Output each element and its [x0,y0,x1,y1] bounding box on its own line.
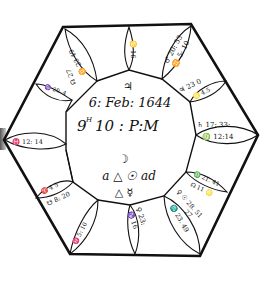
center-time-rest: 10 : P:M [95,117,159,135]
house-label-right-1: ♄ 17: 33: [197,121,230,129]
center-time-sup: H [85,116,93,124]
house-label-top: ♋ 16 [129,40,137,58]
house-label-top-left-2: ☊ 27 [65,68,78,86]
center-aspect-line-2: △ ☿ [115,186,134,199]
center-date: 6: Feb: 1644 [89,95,172,110]
connector-line [66,150,73,182]
horary-chart: ♃ 6: Feb: 1644 9 H 10 : P:M ☽ a △ ☉ ad △… [0,0,280,292]
center-planet-symbol: ♃ [123,80,133,93]
house-label-right-2: ♍ 12:14 [202,132,234,141]
house-label-left: ♓ 12: 14 [12,138,43,146]
center-moon-symbol: ☽ [118,152,129,166]
house-label-bottom-left: ♓ 5: 10 [71,221,90,246]
center-aspect-line: a △ ☉ ad [102,169,156,183]
